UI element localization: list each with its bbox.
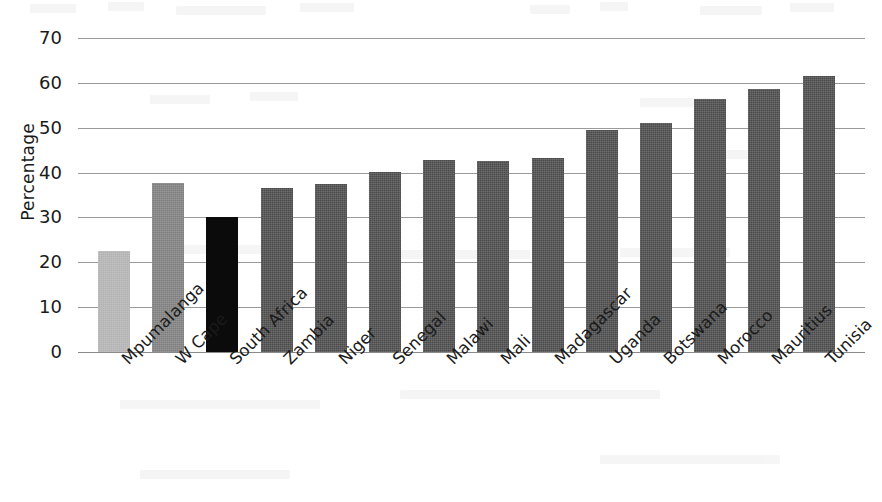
gridline <box>78 38 865 39</box>
gridline <box>78 128 865 129</box>
y-axis-tick-labels: 70 60 50 40 30 20 10 0 <box>16 38 62 352</box>
y-tick-label: 0 <box>16 343 62 361</box>
y-tick-label: 10 <box>16 298 62 316</box>
x-axis-category-labels: MpumalangaW CapeSouth AfricaZambiaNigerS… <box>78 355 878 502</box>
bar-chart: Percentage 70 60 50 40 30 20 10 0 Mpumal… <box>0 0 882 502</box>
bar-senegal <box>369 172 401 352</box>
gridline <box>78 83 865 84</box>
y-tick-label: 20 <box>16 253 62 271</box>
gridline <box>78 307 865 308</box>
y-tick-label: 60 <box>16 74 62 92</box>
bar-mpumalanga <box>98 251 130 352</box>
y-tick-label: 40 <box>16 164 62 182</box>
y-tick-label: 30 <box>16 208 62 226</box>
y-tick-label: 50 <box>16 119 62 137</box>
gridline <box>78 262 865 263</box>
gridline <box>78 217 865 218</box>
plot-area <box>78 38 865 352</box>
y-tick-label: 70 <box>16 29 62 47</box>
gridline <box>78 173 865 174</box>
bar-madagascar <box>532 158 564 352</box>
